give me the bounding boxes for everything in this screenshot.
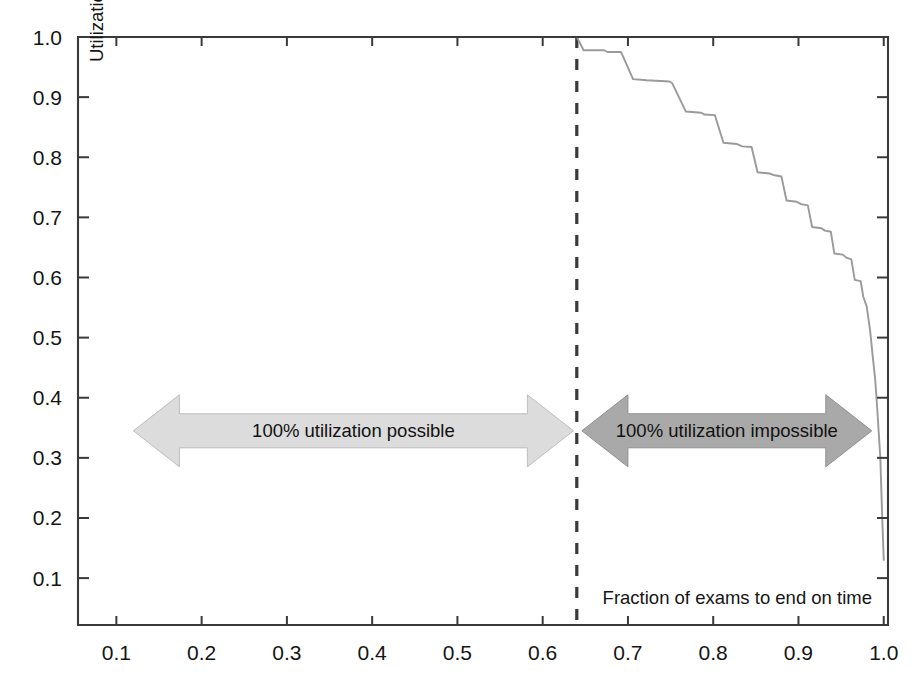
x-axis-title: Fraction of exams to end on time [603,587,872,608]
x-tick-label: 0.8 [699,641,728,664]
annotation-label-utilization-impossible: 100% utilization impossible [616,420,838,441]
y-tick-label: 0.8 [33,146,62,169]
y-axis-title: Utilization [86,0,107,62]
x-tick-label: 0.7 [613,641,642,664]
y-tick-label: 0.1 [33,567,62,590]
x-tick-label: 0.5 [443,641,472,664]
x-tick-label: 0.1 [102,641,131,664]
y-tick-label: 0.2 [33,506,62,529]
utilization-frontier-chart: 0.10.20.30.40.50.60.70.80.91.0 0.10.20.3… [0,0,920,699]
x-tick-label: 1.0 [869,641,898,664]
chart-figure: 0.10.20.30.40.50.60.70.80.91.0 0.10.20.3… [0,0,920,699]
x-tick-label: 0.4 [358,641,388,664]
x-tick-label: 0.9 [784,641,813,664]
x-tick-label: 0.6 [528,641,557,664]
y-tick-label: 0.6 [33,266,62,289]
y-axis-tick-labels: 0.10.20.30.40.50.60.70.80.91.0 [33,26,63,590]
plot-background [78,37,888,625]
y-tick-label: 0.7 [33,206,62,229]
x-tick-label: 0.3 [272,641,301,664]
y-tick-label: 0.3 [33,446,62,469]
y-tick-label: 0.4 [33,386,63,409]
y-tick-label: 0.9 [33,86,62,109]
y-tick-label: 0.5 [33,326,62,349]
y-tick-label: 1.0 [33,26,62,49]
x-tick-label: 0.2 [187,641,216,664]
x-axis-tick-labels: 0.10.20.30.40.50.60.70.80.91.0 [102,641,899,664]
annotation-label-utilization-possible: 100% utilization possible [252,420,455,441]
